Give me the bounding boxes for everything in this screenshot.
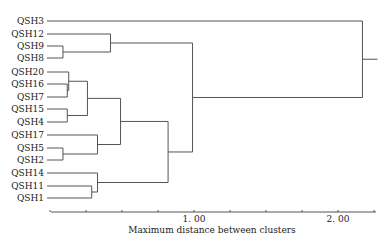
leaf-label: QSH12: [11, 29, 44, 39]
x-axis: 1. 002. 00: [50, 210, 376, 224]
x-axis-label: Maximum distance between clusters: [128, 225, 296, 235]
leaf-label: QSH2: [17, 155, 44, 165]
leaf-label: QSH7: [17, 92, 44, 102]
leaf-label: QSH14: [11, 168, 44, 178]
leaf-label: QSH16: [11, 79, 44, 89]
leaf-label: QSH5: [17, 143, 44, 153]
leaf-label: QSH8: [17, 53, 44, 63]
leaf-labels: QSH3QSH12QSH9QSH8QSH20QSH16QSH7QSH15QSH4…: [11, 16, 44, 203]
leaf-label: QSH3: [17, 16, 44, 26]
leaf-label: QSH17: [11, 130, 44, 140]
leaf-label: QSH1: [17, 193, 44, 203]
dendrogram-chart: QSH3QSH12QSH9QSH8QSH20QSH16QSH7QSH15QSH4…: [0, 0, 391, 246]
x-tick-label: 1. 00: [183, 214, 206, 224]
leaf-label: QSH20: [11, 67, 44, 77]
leaf-label: QSH15: [11, 104, 44, 114]
leaf-label: QSH11: [11, 181, 44, 191]
dendrogram-links: [47, 21, 377, 198]
leaf-label: QSH4: [17, 117, 44, 127]
x-tick-label: 2. 00: [327, 214, 350, 224]
leaf-label: QSH9: [17, 41, 44, 51]
